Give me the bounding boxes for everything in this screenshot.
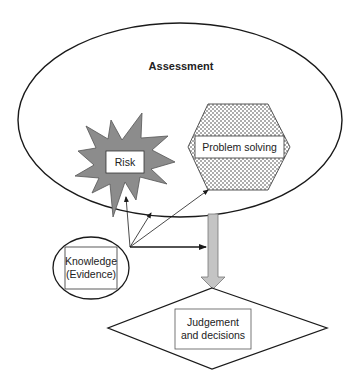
flow-down-arrow — [201, 214, 225, 289]
diagram-canvas: Assessment Risk Problem solving Knowledg… — [0, 0, 358, 388]
assessment-ellipse: Assessment — [18, 23, 342, 217]
arrow-to-risk — [126, 197, 130, 247]
arrow-to-assessment — [130, 213, 151, 247]
arrow-to-problem-solving — [130, 190, 208, 247]
risk-label: Risk — [115, 156, 136, 168]
assessment-label: Assessment — [149, 60, 214, 72]
knowledge-ellipse: Knowledge (Evidence) — [53, 237, 129, 299]
knowledge-label-line2: (Evidence) — [66, 268, 116, 280]
problem-solving-hexagon: Problem solving — [188, 104, 290, 190]
problem-solving-label: Problem solving — [202, 141, 277, 153]
judgement-label-line2: and decisions — [181, 329, 245, 341]
knowledge-arrows — [126, 190, 208, 247]
knowledge-label-line1: Knowledge — [65, 255, 117, 267]
judgement-label-line1: Judgement — [187, 316, 239, 328]
judgement-diamond: Judgement and decisions — [108, 288, 327, 369]
